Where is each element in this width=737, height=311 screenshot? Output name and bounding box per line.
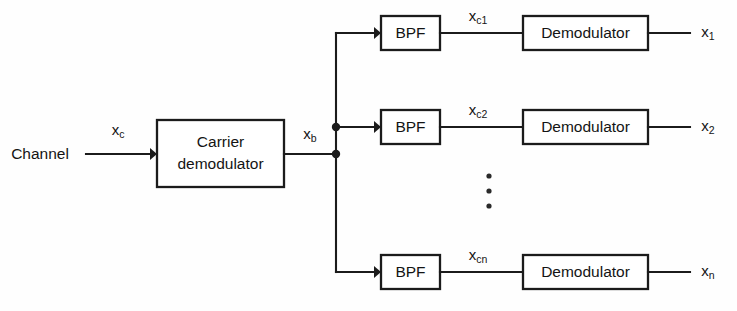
vertical-ellipsis-dot-1 [486,173,491,178]
signal-label-x2-sub: 2 [709,124,715,136]
carrier-demodulator-label-line2: demodulator [177,155,263,172]
demodulator-label-2: Demodulator [541,118,630,135]
channel-source-label: Channel [11,145,69,162]
vertical-ellipsis-icon [486,173,491,208]
demodulator-label-n: Demodulator [541,263,630,280]
signal-label-xc-sub: c [119,128,124,140]
signal-label-xc2: xc2 [469,101,488,120]
signal-label-xn: xn [701,262,715,281]
signal-label-x1: x1 [701,23,715,42]
carrier-demodulator-box[interactable] [157,120,284,187]
signal-label-xn-sub: n [709,269,715,281]
bus-junction-dot-input [332,150,340,158]
vertical-ellipsis-dot-2 [486,188,491,193]
bpf-label-2: BPF [395,118,425,135]
signal-label-xc2-sub: c2 [476,108,487,120]
bpf-label-n: BPF [395,263,425,280]
block-diagram-canvas: Channel xc Carrier demodulator xb BPF xc… [0,0,737,311]
signal-label-xb: xb [303,125,317,144]
bpf-label-1: BPF [395,24,425,41]
block-diagram: Channel xc Carrier demodulator xb BPF xc… [0,0,737,311]
vertical-ellipsis-dot-3 [486,203,491,208]
signal-label-xcn-sub: cn [476,253,487,265]
signal-label-x2: x2 [701,117,715,136]
signal-label-xb-sub: b [311,132,317,144]
signal-label-xc1-sub: c1 [476,14,487,26]
signal-label-xc: xc [112,121,125,140]
demodulator-label-1: Demodulator [541,24,630,41]
signal-label-x1-sub: 1 [709,30,715,42]
signal-label-xc1: xc1 [469,7,488,26]
signal-label-xcn: xcn [469,246,488,265]
carrier-demodulator-label-line1: Carrier [197,133,244,150]
